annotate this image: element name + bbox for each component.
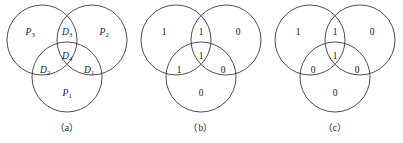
venn-circles: P3D3P2D4D2D1P1	[0, 0, 134, 120]
venn-region-value: 0	[199, 88, 204, 98]
circle-top-right	[325, 5, 395, 75]
venn-region-value: 0	[221, 65, 226, 75]
circle-top-right	[191, 5, 261, 75]
venn-region-label-top-right-only: 0	[236, 28, 241, 38]
venn-region-label-bottom-only: 0	[199, 89, 204, 99]
venn-region-label-center: D4	[62, 52, 72, 62]
venn-region-value: 0	[370, 27, 375, 37]
venn-region-subscript: 3	[32, 31, 35, 38]
venn-region-label-right-lens: D1	[84, 66, 94, 76]
venn-circles: 1101100	[134, 0, 268, 120]
venn-region-label-right-lens: 0	[355, 66, 360, 76]
venn-region-label-center: 1	[333, 52, 338, 62]
venn-region-value: 1	[177, 65, 182, 75]
venn-diagram-panel: P3D3P2D4D2D1P1（a）	[0, 0, 134, 143]
venn-region-value: D	[62, 51, 69, 61]
venn-region-label-top-left-only: 1	[296, 28, 301, 38]
venn-diagram-panel: 1101100（b）	[134, 0, 268, 143]
venn-region-value: 1	[333, 51, 338, 61]
venn-region-value: P	[99, 27, 105, 37]
venn-region-value: 0	[333, 88, 338, 98]
venn-region-value: 1	[199, 27, 204, 37]
venn-region-value: D	[62, 27, 69, 37]
venn-region-value: 0	[355, 65, 360, 75]
venn-region-label-top-right-only: 0	[370, 28, 375, 38]
venn-region-subscript: 2	[47, 69, 50, 76]
venn-region-label-center: 1	[199, 52, 204, 62]
venn-region-value: D	[40, 65, 47, 75]
venn-region-value: 1	[162, 27, 167, 37]
venn-region-value: 0	[311, 65, 316, 75]
venn-region-value: D	[84, 65, 91, 75]
venn-region-label-bottom-only: P1	[62, 89, 71, 99]
venn-region-label-left-lens: 1	[177, 66, 182, 76]
venn-region-subscript: 2	[106, 31, 109, 38]
panel-caption: （c）	[268, 120, 402, 134]
panel-caption: （a）	[0, 120, 134, 134]
venn-region-value: 1	[296, 27, 301, 37]
venn-region-label-top-lens: 1	[199, 28, 204, 38]
venn-region-label-top-right-only: P2	[99, 28, 108, 38]
venn-region-subscript: 1	[91, 69, 94, 76]
venn-region-subscript: 3	[69, 31, 72, 38]
venn-region-subscript: 4	[69, 55, 72, 62]
venn-circles: 1101000	[268, 0, 402, 120]
venn-region-label-top-left-only: P3	[25, 28, 34, 38]
venn-diagram-panel: 1101000（c）	[268, 0, 402, 143]
venn-region-label-top-lens: D3	[62, 28, 72, 38]
venn-figure-row: P3D3P2D4D2D1P1（a）1101100（b）1101000（c）	[0, 0, 403, 143]
venn-region-label-left-lens: D2	[40, 66, 50, 76]
venn-region-label-top-lens: 1	[333, 28, 338, 38]
venn-region-label-bottom-only: 0	[333, 89, 338, 99]
venn-region-label-top-left-only: 1	[162, 28, 167, 38]
venn-region-value: 0	[236, 27, 241, 37]
venn-region-value: P	[62, 88, 68, 98]
panel-caption: （b）	[134, 120, 268, 134]
venn-region-value: P	[25, 27, 31, 37]
circle-top-right	[57, 5, 127, 75]
venn-region-label-left-lens: 0	[311, 66, 316, 76]
venn-region-subscript: 1	[69, 92, 72, 99]
venn-region-value: 1	[199, 51, 204, 61]
venn-region-value: 1	[333, 27, 338, 37]
venn-region-label-right-lens: 0	[221, 66, 226, 76]
